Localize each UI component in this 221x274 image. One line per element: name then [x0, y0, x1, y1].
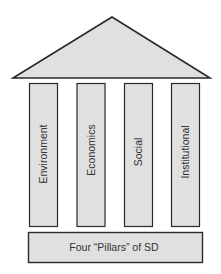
pillar-institutional: Institutional [172, 84, 200, 227]
base-foundation: Four “Pillars” of SD [29, 233, 203, 263]
pillar-label-economics: Economics [85, 124, 97, 175]
roof-triangle [13, 17, 210, 78]
pillar-environment: Environment [30, 84, 58, 227]
pillar-economics: Economics [77, 84, 105, 227]
pillar-label-social: Social [132, 138, 144, 167]
pillar-label-institutional: Institutional [179, 125, 191, 178]
sd-pillars-diagram: Environment Economics Social Institution… [0, 0, 221, 274]
pillar-label-environment: Environment [37, 124, 49, 183]
pillar-social: Social [125, 84, 153, 227]
base-title: Four “Pillars” of SD [69, 241, 159, 253]
